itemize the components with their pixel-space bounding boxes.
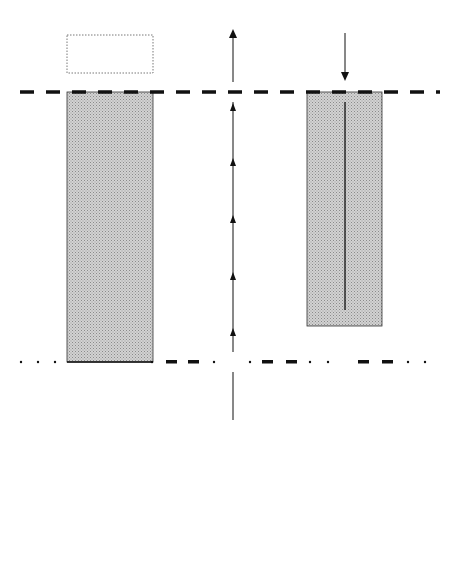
arrow-down-icon	[341, 72, 349, 81]
arrow-up-icon	[230, 103, 236, 111]
arrow-up-icon	[230, 328, 236, 336]
arrow-up-icon	[229, 29, 237, 38]
auxiliary-access-control-path	[67, 92, 153, 362]
entry-path-line	[229, 29, 237, 420]
heavy-equipment-decon-area	[67, 35, 153, 73]
decontamination-zone-diagram	[0, 0, 454, 587]
arrow-up-icon	[230, 158, 236, 166]
arrow-up-icon	[230, 272, 236, 280]
arrow-up-icon	[230, 215, 236, 223]
